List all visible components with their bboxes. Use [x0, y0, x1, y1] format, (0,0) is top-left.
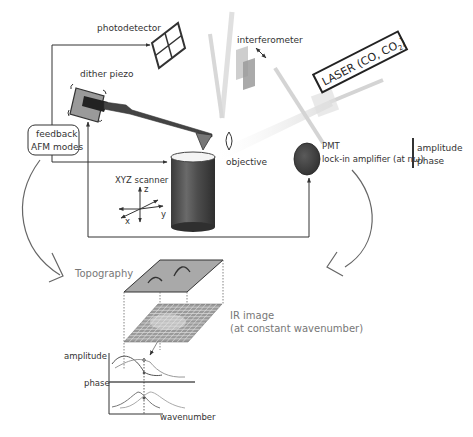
amplitude-output-label: amplitude: [417, 143, 463, 153]
laser-label: LASER (CO, CO2): [320, 35, 409, 90]
axis-y-label: y: [161, 209, 166, 219]
axis-z-label: z: [144, 184, 149, 194]
amplitude-point: [143, 372, 146, 375]
phase-output-label: phase: [417, 156, 445, 166]
topography-label: Topography: [74, 268, 133, 279]
vibration-mark: [103, 90, 106, 94]
curved-arrow-right: [345, 170, 372, 267]
spectrum-amplitude-label: amplitude: [64, 351, 107, 361]
phase-curve-2: [120, 392, 185, 408]
incident-beam: [222, 12, 232, 118]
topography-plane: [124, 260, 223, 292]
ir-image-grid: [124, 304, 222, 342]
cantilever: [104, 102, 212, 150]
ir-image-label-line2: (at constant wavenumber): [230, 323, 363, 334]
spectrum-xlabel: wavenumber: [160, 412, 216, 422]
interferometer: [236, 46, 266, 90]
afm-tip: [196, 133, 212, 150]
pmt-label: PMT: [322, 141, 340, 151]
spectrum-phase-label: phase: [84, 378, 110, 388]
spectrum-plot: [109, 353, 195, 414]
vibration-mark: [68, 110, 69, 116]
interferometer-arrow-icon: [256, 48, 266, 58]
feedback-label-line1: feedback: [36, 129, 78, 139]
dither-piezo-label: dither piezo: [80, 69, 134, 79]
dither-piezo: [68, 84, 108, 122]
xyz-scanner: [171, 152, 215, 232]
curved-arrow-left-head-icon: [49, 253, 63, 282]
vibration-mark: [71, 84, 73, 89]
axis-x-label: x: [125, 216, 130, 226]
ir-image-label-line1: IR image: [230, 310, 274, 321]
pixel-to-spectrum-arrow: [150, 341, 158, 355]
scanner-feedback-line: [52, 155, 167, 162]
objective-label: objective: [226, 157, 268, 167]
interferometer-label: interferometer: [237, 35, 303, 45]
xyz-scanner-label: XYZ scanner: [115, 175, 169, 185]
reflected-beam: [210, 34, 222, 118]
photodetector-label: photodetector: [97, 23, 161, 33]
feedback-label-line2: AFM modes: [31, 142, 83, 152]
phase-curve-1: [112, 392, 160, 408]
phase-point: [143, 397, 146, 400]
curved-arrow-right-head-icon: [327, 252, 343, 276]
afm-ir-diagram: photodetector interferometer LASER (CO, …: [0, 0, 473, 437]
lockin-label: lock-in amplifier (at nω): [322, 154, 423, 164]
laser-box: LASER (CO, CO2): [313, 31, 408, 93]
pmt-detector: [294, 143, 320, 175]
